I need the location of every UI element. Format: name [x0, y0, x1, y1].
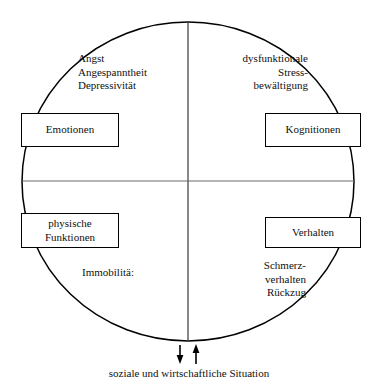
quadrant-label-bottom-right: Schmerz- verhalten Rückzug: [210, 259, 306, 300]
diagram-canvas: Angst Angespanntheit Depressivität dysfu…: [0, 0, 378, 392]
arrow-down-icon: [177, 345, 184, 364]
node-box-physische-funktionen: physische Funktionen: [21, 213, 119, 248]
diagram-graphics: [0, 0, 378, 392]
quadrant-label-top-left: Angst Angespanntheit Depressivität: [78, 52, 188, 93]
figure-caption: soziale und wirtschaftliche Situation: [0, 366, 378, 380]
node-box-emotionen: Emotionen: [21, 113, 119, 147]
node-box-verhalten: Verhalten: [265, 217, 361, 248]
arrow-up-icon: [193, 344, 200, 364]
node-box-kognitionen: Kognitionen: [265, 113, 361, 147]
quadrant-label-top-right: dysfunktionale Stress- bewältigung: [196, 52, 308, 93]
quadrant-label-bottom-left: Immobilitä:: [82, 266, 192, 280]
